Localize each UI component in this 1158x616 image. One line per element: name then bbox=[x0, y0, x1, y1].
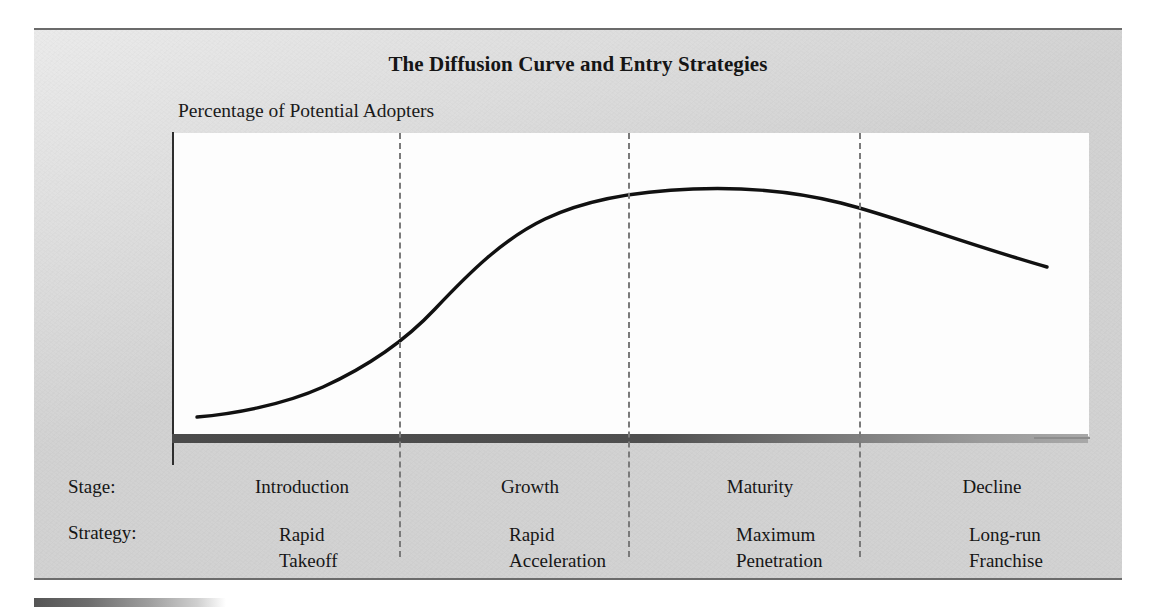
page-title: The Diffusion Curve and Entry Strategies bbox=[34, 52, 1122, 77]
diffusion-curve-line bbox=[197, 189, 1047, 417]
stage-name-introduction: Introduction bbox=[206, 476, 398, 498]
strategy-name-decline: Long-run Franchise bbox=[969, 522, 1129, 574]
x-axis-baseline-extension bbox=[1034, 437, 1090, 439]
diffusion-curve-chart bbox=[173, 133, 1089, 436]
strategy-name-introduction: Rapid Takeoff bbox=[279, 522, 429, 574]
plot-area bbox=[173, 133, 1089, 436]
x-axis-baseline bbox=[172, 434, 1088, 443]
strategy-name-growth: Rapid Acceleration bbox=[509, 522, 669, 574]
figure-card: The Diffusion Curve and Entry Strategies… bbox=[34, 28, 1122, 580]
stage-label-table: Stage: Strategy: Introduction Rapid Take… bbox=[34, 444, 1122, 582]
footer-gradient-rule bbox=[34, 598, 226, 607]
stage-name-maturity: Maturity bbox=[664, 476, 856, 498]
stage-name-decline: Decline bbox=[896, 476, 1088, 498]
stage-row-label: Stage: bbox=[68, 476, 116, 498]
strategy-row-label: Strategy: bbox=[68, 522, 137, 544]
y-axis-label: Percentage of Potential Adopters bbox=[178, 100, 434, 122]
strategy-name-maturity: Maximum Penetration bbox=[736, 522, 906, 574]
y-axis-line bbox=[172, 132, 174, 465]
stage-name-growth: Growth bbox=[434, 476, 626, 498]
